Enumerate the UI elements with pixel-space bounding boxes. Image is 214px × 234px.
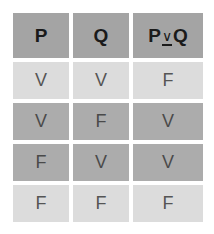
table-cell: F — [133, 185, 203, 222]
cell-value: F — [36, 152, 47, 173]
cell-value: V — [162, 111, 174, 132]
cell-value: V — [35, 70, 47, 91]
table-cell: V — [13, 62, 69, 99]
table-cell: V — [73, 144, 129, 181]
header-q-label: Q — [94, 25, 109, 47]
cell-value: F — [163, 70, 174, 91]
table-cell: F — [13, 144, 69, 181]
xor-operator-icon: ∨ — [162, 28, 172, 44]
header-q: Q — [73, 13, 129, 58]
table-cell: F — [133, 62, 203, 99]
cell-value: V — [95, 152, 107, 173]
table-cell: F — [73, 185, 129, 222]
cell-value: F — [96, 193, 107, 214]
table-cell: V — [133, 144, 203, 181]
table-cell: F — [73, 103, 129, 140]
table-cell: V — [73, 62, 129, 99]
header-exclusive-or: P∨Q — [133, 13, 203, 58]
cell-value: F — [96, 111, 107, 132]
cell-value: F — [36, 193, 47, 214]
table-cell: V — [133, 103, 203, 140]
table-cell: V — [13, 103, 69, 140]
table-cell: F — [13, 185, 69, 222]
cell-value: V — [95, 70, 107, 91]
header-xor-left: P — [148, 25, 161, 47]
header-p-label: P — [35, 25, 48, 47]
cell-value: V — [35, 111, 47, 132]
cell-value: V — [162, 152, 174, 173]
header-p: P — [13, 13, 69, 58]
cell-value: F — [163, 193, 174, 214]
truth-table: P Q P∨Q V V F V F V F V V F F F — [13, 13, 203, 222]
header-xor-right: Q — [173, 25, 188, 47]
